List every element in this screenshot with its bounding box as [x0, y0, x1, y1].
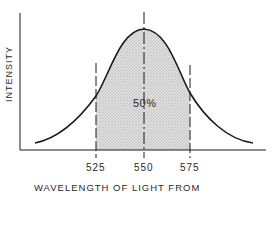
y-axis-label: INTENSITY — [4, 56, 14, 102]
x-tick-575: 575 — [180, 162, 200, 173]
x-axis-label: WAVELENGTH OF LIGHT FROM — [34, 182, 200, 193]
x-tick-550: 550 — [134, 162, 154, 173]
shaded-percent-label: 50% — [133, 97, 157, 109]
x-tick-525: 525 — [86, 162, 106, 173]
